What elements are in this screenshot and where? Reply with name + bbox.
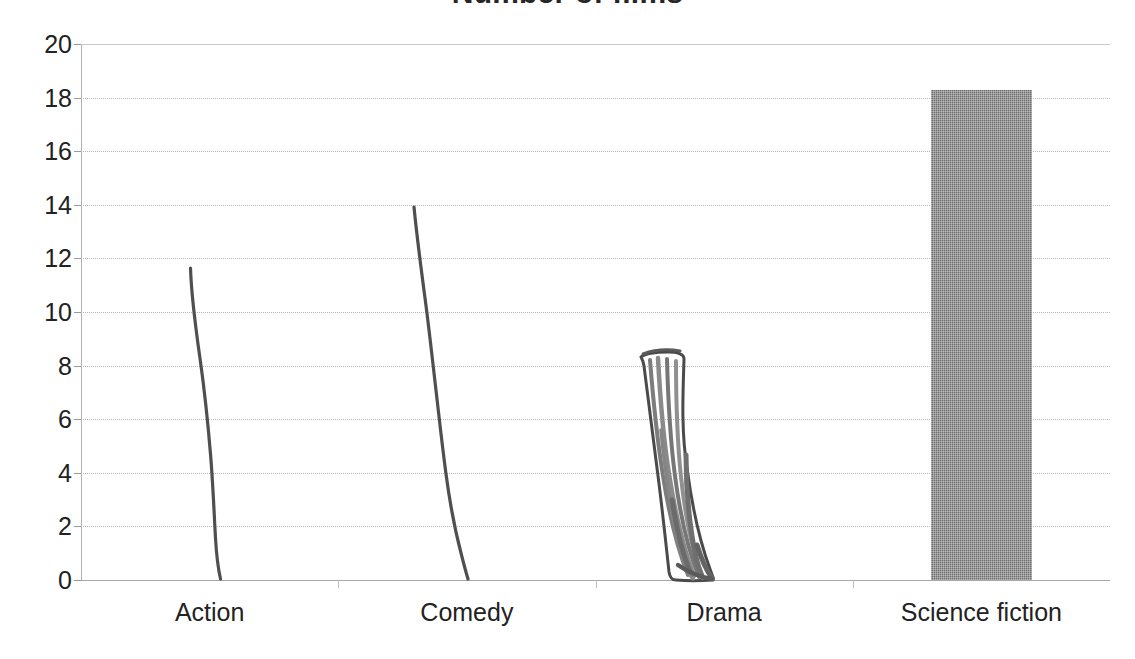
y-tick-6 [74, 419, 81, 420]
y-axis-label-0: 0 [58, 568, 72, 593]
y-axis-label-20: 20 [44, 32, 72, 57]
x-axis-label-drama: Drama [687, 598, 762, 627]
y-axis-label-18: 18 [44, 85, 72, 110]
y-axis-label-16: 16 [44, 139, 72, 164]
y-axis-label-4: 4 [58, 460, 72, 485]
y-tick-0 [74, 580, 81, 581]
y-tick-16 [74, 151, 81, 152]
y-axis-label-6: 6 [58, 407, 72, 432]
x-tick-2 [596, 580, 597, 588]
y-axis-label-14: 14 [44, 192, 72, 217]
y-axis-label-10: 10 [44, 300, 72, 325]
x-axis-label-action: Action [175, 598, 244, 627]
y-tick-14 [74, 205, 81, 206]
y-tick-4 [74, 473, 81, 474]
y-axis-label-12: 12 [44, 246, 72, 271]
y-tick-8 [74, 366, 81, 367]
y-axis-label-8: 8 [58, 353, 72, 378]
y-axis-label-2: 2 [58, 514, 72, 539]
bar-science-fiction [931, 90, 1032, 580]
x-tick-3 [853, 580, 854, 588]
x-axis-label-comedy: Comedy [420, 598, 513, 627]
y-tick-18 [74, 98, 81, 99]
y-tick-20 [74, 44, 81, 45]
y-tick-2 [74, 526, 81, 527]
x-tick-1 [338, 580, 339, 588]
chart-title: Number of films [0, 0, 1135, 10]
chart-container: Number of films 20181614121086420 Action… [0, 0, 1135, 659]
gridline-20 [81, 44, 1110, 45]
y-tick-12 [74, 258, 81, 259]
y-tick-10 [74, 312, 81, 313]
x-axis-label-science-fiction: Science fiction [901, 598, 1062, 627]
